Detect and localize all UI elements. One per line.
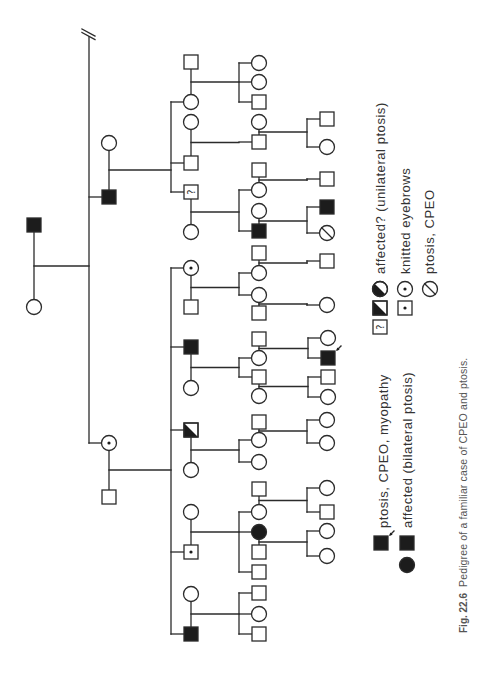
individual-male-affected [252,224,266,238]
individual-female-unaffected [320,549,335,564]
legend-female-affected-unilateral-icon [373,282,388,297]
individual-female-unaffected [252,75,267,90]
circle-icon [252,389,267,404]
circle-icon [320,524,335,539]
circle-icon [320,436,335,451]
legend: ? ptosis, CPEO, myopathy affected (bilat… [373,102,438,572]
circle-icon [27,300,42,315]
individual-female-unaffected [321,331,336,346]
circle-icon [252,266,267,281]
square-icon [184,156,198,170]
circle-icon [321,331,336,346]
legend-label-affected: affected (bilateral ptosis) [400,372,415,528]
square-icon [27,218,41,232]
pedigree-lines [34,29,321,634]
legend-male-knitted-eyebrows-icon [398,301,412,315]
individual-male-affected [184,627,198,641]
legend-symbols-ptosis-cpeo [423,282,438,297]
circle-icon [252,75,267,90]
individual-male-unaffected [252,370,266,384]
individual-male-unaffected [252,135,266,149]
legend-label-affected-uncertain: affected? (unilateral ptosis) [373,102,388,274]
circle-icon [184,463,199,478]
individual-male-unaffected [252,482,266,496]
circle-icon [252,351,267,366]
individual-male-unaffected [320,505,334,519]
circle-icon [320,298,335,313]
individual-male-unaffected [184,55,198,69]
square-icon [252,163,266,177]
individual-female-unaffected [320,481,335,496]
individual-male-affected [184,340,198,354]
square-icon [252,370,266,384]
circle-icon [252,56,267,71]
circle-icon [184,587,199,602]
individual-male-unaffected [184,300,198,314]
individual-male-ptosis-cpeo-myopathy [321,346,341,365]
individual-male-knitted-eyebrows [184,545,198,559]
individual-male-affected [102,190,116,204]
question-mark-icon: ? [375,324,386,329]
circle-icon [252,433,267,448]
circle-icon [252,204,267,219]
individual-male-unaffected [252,95,266,109]
circle-icon [184,505,199,520]
individual-female-unaffected [252,288,267,303]
square-icon [252,565,266,579]
legend-male-affected-unilateral-icon [373,301,387,315]
individual-female-unaffected [320,140,335,155]
square-icon [320,200,334,214]
circle-icon [252,455,267,470]
center-dot-icon [403,306,406,309]
individual-male-affected [27,218,41,232]
individual-male-unaffected [102,490,116,504]
circle-icon [184,381,199,396]
circle-icon [252,183,267,198]
square-icon [102,190,116,204]
individual-female-unaffected [252,266,267,281]
square-icon [252,482,266,496]
circle-icon [320,481,335,496]
circle-icon [102,136,117,151]
square-icon [400,536,414,550]
circle-icon [252,525,267,540]
individual-male-unaffected [252,415,266,429]
individual-female-unaffected [321,390,336,405]
individual-male-unaffected [320,112,334,126]
center-dot-icon [107,441,110,444]
legend-female-knitted-eyebrows-icon [398,282,413,297]
individual-male-unaffected [320,254,334,268]
square-icon [321,351,335,365]
square-icon [320,254,334,268]
square-icon [252,135,266,149]
legend-label-ptosis-cpeo-myopathy: ptosis, CPEO, myopathy [376,374,391,528]
circle-icon [400,558,415,573]
circle-icon [252,288,267,303]
question-mark-icon: ? [186,189,197,194]
individual-female-knitted-eyebrows [184,261,199,276]
individual-female-unaffected [320,436,335,451]
square-icon [102,490,116,504]
square-icon [184,55,198,69]
individual-female-unaffected [252,455,267,470]
circle-icon [320,413,335,428]
individual-male-unaffected [252,163,266,177]
figure-label: Fig. 22.6 [458,593,469,633]
individual-female-unaffected [252,505,267,520]
legend-symbols-affected [400,536,415,573]
square-icon [184,340,198,354]
individual-male-unaffected [252,627,266,641]
individual-female-unaffected [184,115,199,130]
circle-icon [252,505,267,520]
individual-female-unaffected [252,351,267,366]
individual-female-unaffected [252,607,267,622]
square-icon [252,545,266,559]
proband-arrow-icon [336,346,341,351]
center-dot-icon [189,550,192,553]
individual-female-unaffected [320,298,335,313]
legend-male-ptosis-cpeo-myopathy-icon [374,531,394,550]
individual-male-affected-unilateral [184,423,198,437]
legend-male-affected-uncertain-icon: ? [373,320,387,334]
individual-male-unaffected [252,586,266,600]
individual-female-unaffected [252,115,267,130]
